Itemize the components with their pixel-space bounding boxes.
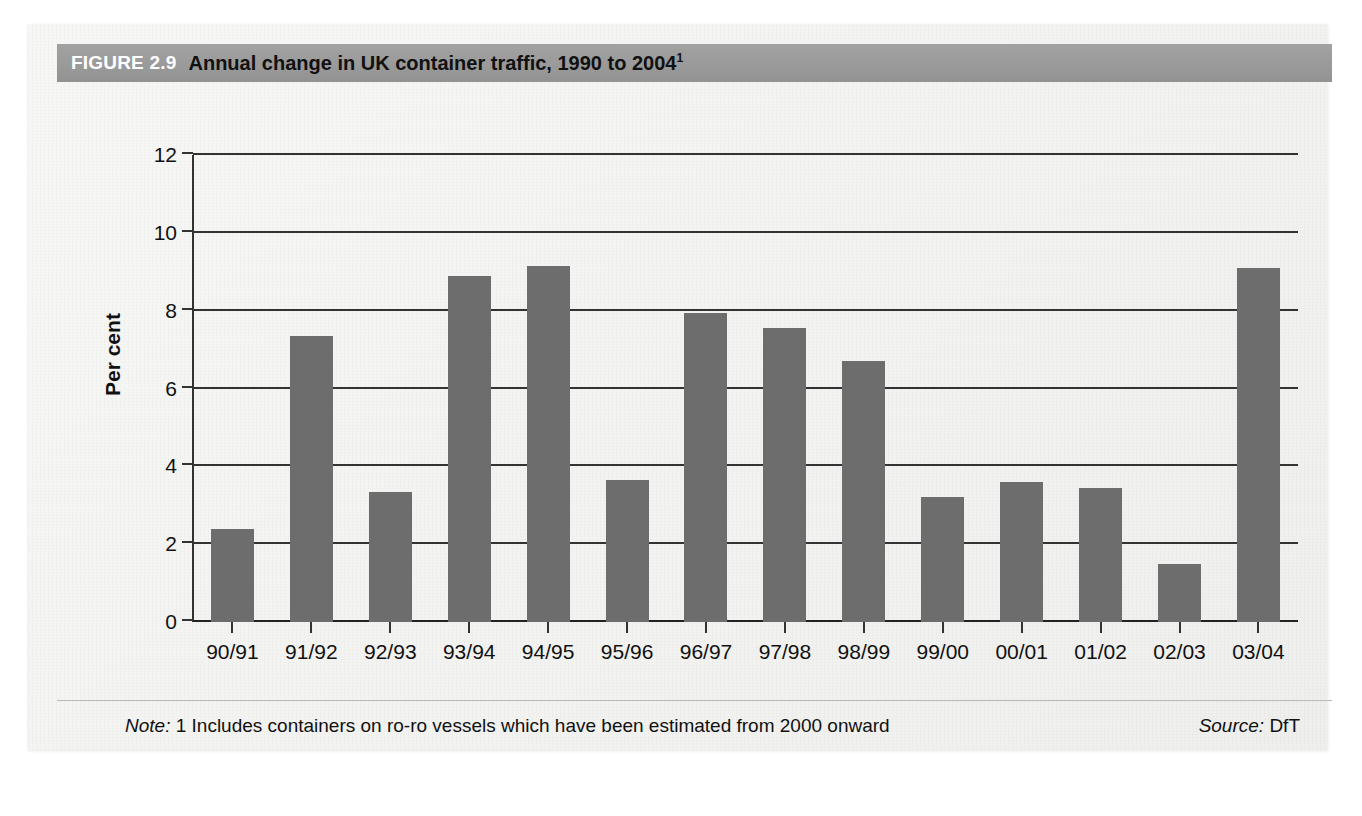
chart-area: Per cent 024681012 90/9191/9292/9393/949… bbox=[57, 96, 1332, 676]
bar-90-91 bbox=[211, 529, 254, 622]
y-tick-label-0: 0 bbox=[165, 610, 177, 634]
x-tick-label-91-92: 91/92 bbox=[285, 640, 338, 664]
bar-slot-97-98: 97/98 bbox=[745, 155, 824, 622]
bar-02-03 bbox=[1158, 564, 1201, 622]
y-tick-mark-2 bbox=[182, 541, 193, 543]
x-tick-label-02-03: 02/03 bbox=[1153, 640, 1206, 664]
figure-source: Source: DfT bbox=[1199, 715, 1300, 737]
bar-slot-01-02: 01/02 bbox=[1061, 155, 1140, 622]
page-title: Annual change in UK container traffic, 1… bbox=[188, 51, 683, 75]
x-tick-label-94-95: 94/95 bbox=[522, 640, 575, 664]
y-tick-label-8: 8 bbox=[165, 299, 177, 323]
x-tick-01-02 bbox=[1100, 622, 1102, 633]
x-tick-label-01-02: 01/02 bbox=[1074, 640, 1127, 664]
bar-slot-96-97: 96/97 bbox=[667, 155, 746, 622]
bar-slot-91-92: 91/92 bbox=[272, 155, 351, 622]
figure-footer: Note: 1 Includes containers on ro-ro ves… bbox=[57, 700, 1332, 743]
figure-title-text: Annual change in UK container traffic, 1… bbox=[188, 52, 676, 74]
x-tick-94-95 bbox=[547, 622, 549, 633]
plot-region: 024681012 90/9191/9292/9393/9494/9595/96… bbox=[193, 155, 1298, 622]
y-tick-mark-0 bbox=[182, 619, 193, 621]
x-tick-98-99 bbox=[863, 622, 865, 633]
x-tick-label-92-93: 92/93 bbox=[364, 640, 417, 664]
figure-title-footnote-marker: 1 bbox=[676, 51, 683, 65]
x-tick-label-03-04: 03/04 bbox=[1232, 640, 1285, 664]
x-tick-label-96-97: 96/97 bbox=[680, 640, 733, 664]
x-tick-label-99-00: 99/00 bbox=[916, 640, 969, 664]
bar-99-00 bbox=[921, 497, 964, 622]
bar-series: 90/9191/9292/9393/9494/9595/9696/9797/98… bbox=[193, 155, 1298, 622]
y-tick-mark-12 bbox=[182, 152, 193, 154]
x-tick-97-98 bbox=[784, 622, 786, 633]
y-tick-mark-4 bbox=[182, 463, 193, 465]
x-tick-92-93 bbox=[389, 622, 391, 633]
bar-96-97 bbox=[684, 313, 727, 622]
x-tick-95-96 bbox=[626, 622, 628, 633]
y-tick-mark-10 bbox=[182, 230, 193, 232]
bar-slot-02-03: 02/03 bbox=[1140, 155, 1219, 622]
figure-number-label: FIGURE 2.9 bbox=[71, 52, 176, 74]
x-tick-label-93-94: 93/94 bbox=[443, 640, 496, 664]
note-text: 1 Includes containers on ro-ro vessels w… bbox=[176, 715, 890, 736]
x-tick-label-90-91: 90/91 bbox=[206, 640, 259, 664]
y-tick-mark-8 bbox=[182, 308, 193, 310]
bar-94-95 bbox=[527, 266, 570, 622]
bar-91-92 bbox=[290, 336, 333, 622]
x-tick-96-97 bbox=[705, 622, 707, 633]
bar-01-02 bbox=[1079, 488, 1122, 622]
bar-slot-00-01: 00/01 bbox=[982, 155, 1061, 622]
bar-03-04 bbox=[1237, 268, 1280, 622]
y-tick-label-2: 2 bbox=[165, 532, 177, 556]
y-tick-label-4: 4 bbox=[165, 454, 177, 478]
y-tick-label-6: 6 bbox=[165, 377, 177, 401]
x-tick-label-00-01: 00/01 bbox=[995, 640, 1048, 664]
bar-slot-03-04: 03/04 bbox=[1219, 155, 1298, 622]
x-tick-90-91 bbox=[231, 622, 233, 633]
bar-92-93 bbox=[369, 492, 412, 622]
bar-97-98 bbox=[763, 328, 806, 622]
bar-95-96 bbox=[606, 480, 649, 622]
bar-slot-95-96: 95/96 bbox=[588, 155, 667, 622]
x-tick-label-95-96: 95/96 bbox=[601, 640, 654, 664]
y-axis-title: Per cent bbox=[101, 313, 125, 396]
source-text: DfT bbox=[1269, 715, 1300, 736]
bar-slot-99-00: 99/00 bbox=[903, 155, 982, 622]
x-tick-99-00 bbox=[942, 622, 944, 633]
x-tick-label-98-99: 98/99 bbox=[838, 640, 891, 664]
bar-98-99 bbox=[842, 361, 885, 622]
figure-note: Note: 1 Includes containers on ro-ro ves… bbox=[125, 715, 890, 737]
x-tick-93-94 bbox=[468, 622, 470, 633]
y-tick-mark-6 bbox=[182, 386, 193, 388]
x-tick-02-03 bbox=[1179, 622, 1181, 633]
bar-93-94 bbox=[448, 276, 491, 622]
bar-00-01 bbox=[1000, 482, 1043, 622]
x-tick-03-04 bbox=[1257, 622, 1259, 633]
figure-title-bar: FIGURE 2.9 Annual change in UK container… bbox=[57, 44, 1332, 82]
bar-slot-90-91: 90/91 bbox=[193, 155, 272, 622]
x-tick-00-01 bbox=[1021, 622, 1023, 633]
x-tick-91-92 bbox=[310, 622, 312, 633]
bar-slot-92-93: 92/93 bbox=[351, 155, 430, 622]
note-label: Note: bbox=[125, 715, 170, 736]
y-tick-label-10: 10 bbox=[154, 221, 177, 245]
figure-root: FIGURE 2.9 Annual change in UK container… bbox=[0, 0, 1362, 816]
bar-slot-93-94: 93/94 bbox=[430, 155, 509, 622]
y-tick-label-12: 12 bbox=[154, 143, 177, 167]
x-tick-label-97-98: 97/98 bbox=[759, 640, 812, 664]
source-label: Source: bbox=[1199, 715, 1264, 736]
bar-slot-98-99: 98/99 bbox=[824, 155, 903, 622]
bar-slot-94-95: 94/95 bbox=[509, 155, 588, 622]
